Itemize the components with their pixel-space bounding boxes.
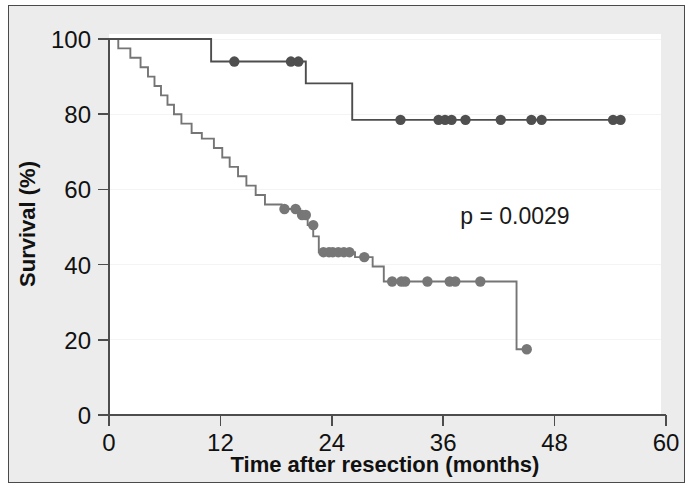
plot-area-background [109,34,661,415]
y-tick-label: 80 [64,101,91,128]
censor-mark [308,220,318,230]
figure-panel: 020406080100 01224364860 p = 0.0029 Time… [8,5,685,483]
y-tick-label: 0 [78,402,91,429]
survival-chart: 020406080100 01224364860 p = 0.0029 Time… [9,6,684,482]
censor-mark [359,252,369,262]
pvalue-annotation: p = 0.0029 [460,203,569,229]
y-axis-tick-labels: 020406080100 [51,26,91,429]
censor-mark [475,276,485,286]
censor-mark [229,56,239,66]
y-axis-ticks [98,39,109,415]
censor-mark [460,115,470,125]
censor-mark [422,276,432,286]
censor-mark [496,115,506,125]
censor-mark [526,115,536,125]
censor-mark [450,276,460,286]
censor-mark [615,115,625,125]
censor-mark [395,115,405,125]
y-tick-label: 100 [51,26,91,53]
censor-mark [446,115,456,125]
y-tick-label: 40 [64,252,91,279]
y-tick-label: 20 [64,327,91,354]
x-tick-label: 0 [102,429,115,456]
x-tick-label: 48 [541,429,568,456]
censor-mark [279,204,289,214]
censor-mark [522,344,532,354]
figure-container: 020406080100 01224364860 p = 0.0029 Time… [0,0,693,488]
x-axis-ticks [109,415,666,426]
censor-mark [293,56,303,66]
censor-mark [301,210,311,220]
censor-mark [536,115,546,125]
x-tick-label: 60 [653,429,680,456]
y-axis-title: Survival (%) [15,161,40,287]
censor-mark [387,276,397,286]
censor-mark [344,247,354,257]
y-tick-label: 60 [64,176,91,203]
censor-mark [400,276,410,286]
x-axis-title: Time after resection (months) [231,452,540,477]
